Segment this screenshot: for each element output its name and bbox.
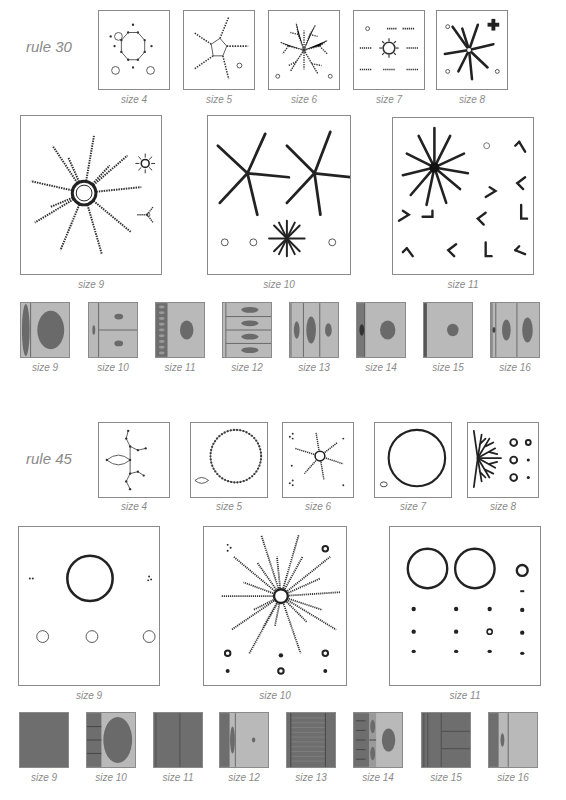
caption: size 14 bbox=[353, 772, 403, 783]
caption: size 12 bbox=[219, 772, 269, 783]
cell-grid-graphic bbox=[223, 303, 271, 357]
rule45-size14-grid bbox=[353, 712, 403, 768]
cell-grid-graphic bbox=[290, 303, 338, 357]
caption: size 16 bbox=[490, 362, 540, 373]
rule45-size6-tile bbox=[282, 422, 354, 498]
caption: size 4 bbox=[98, 501, 170, 512]
rule45-size11-tile bbox=[389, 526, 541, 686]
rule-45-label: rule 45 bbox=[26, 450, 72, 467]
rule30-size13-grid bbox=[289, 302, 339, 358]
fan-tree-graphic bbox=[468, 423, 538, 497]
rule30-size10-grid bbox=[88, 302, 138, 358]
cell-grid-graphic bbox=[489, 713, 537, 767]
caption: size 8 bbox=[467, 501, 539, 512]
caption: size 11 bbox=[155, 362, 205, 373]
caption: size 16 bbox=[488, 772, 538, 783]
caption: size 9 bbox=[19, 772, 69, 783]
spiky-star-graphic bbox=[437, 11, 507, 89]
cell-grid-graphic bbox=[357, 303, 405, 357]
rule45-size16-grid bbox=[488, 712, 538, 768]
caption: size 8 bbox=[436, 94, 508, 105]
branching-star-graphic bbox=[269, 11, 339, 89]
rule45-size10-grid bbox=[86, 712, 136, 768]
rule30-size6-tile bbox=[268, 10, 340, 90]
rule30-size5-tile bbox=[183, 10, 255, 90]
five-arm-stars-graphic bbox=[208, 116, 350, 274]
caption: size 13 bbox=[286, 772, 336, 783]
rule30-size16-grid bbox=[490, 302, 540, 358]
rule-30-label: rule 30 bbox=[26, 38, 72, 55]
rule45-size9-tile bbox=[18, 526, 160, 686]
cell-grid-graphic bbox=[154, 713, 202, 767]
caption: size 12 bbox=[222, 362, 272, 373]
rule45-size5-tile bbox=[190, 422, 268, 498]
caption: size 10 bbox=[207, 279, 351, 290]
cell-grid-graphic bbox=[491, 303, 539, 357]
rule30-size9-grid bbox=[20, 302, 70, 358]
rule30-size9-tile bbox=[20, 115, 162, 275]
branching-tree-graphic bbox=[99, 423, 169, 497]
rule45-size10-tile bbox=[203, 526, 347, 686]
rule45-size13-grid bbox=[286, 712, 336, 768]
caption: size 11 bbox=[153, 772, 203, 783]
caption: size 7 bbox=[353, 94, 425, 105]
dotted-sunburst-graphic bbox=[204, 527, 346, 685]
rule30-size4-tile bbox=[98, 10, 170, 90]
rule45-size9-grid bbox=[19, 712, 69, 768]
rule45-size15-grid bbox=[421, 712, 471, 768]
cell-grid-graphic bbox=[220, 713, 268, 767]
large-ring-graphic bbox=[375, 423, 451, 497]
ring-and-crosses-graphic bbox=[354, 11, 424, 89]
star-and-tiles-graphic bbox=[393, 118, 533, 274]
cell-grid-graphic bbox=[21, 303, 69, 357]
caption: size 11 bbox=[392, 279, 534, 290]
rule30-size12-grid bbox=[222, 302, 272, 358]
caption: size 9 bbox=[20, 362, 70, 373]
caption: size 5 bbox=[190, 501, 268, 512]
rule45-size7-tile bbox=[374, 422, 452, 498]
rule45-size4-tile bbox=[98, 422, 170, 498]
rule45-size12-grid bbox=[219, 712, 269, 768]
rule45-size11-grid bbox=[153, 712, 203, 768]
rule30-size7-tile bbox=[353, 10, 425, 90]
caption: size 15 bbox=[423, 362, 473, 373]
rule30-size14-grid bbox=[356, 302, 406, 358]
rule30-size11-grid bbox=[155, 302, 205, 358]
caption: size 9 bbox=[20, 279, 162, 290]
caption: size 7 bbox=[374, 501, 452, 512]
caption: size 6 bbox=[268, 94, 340, 105]
caption: size 10 bbox=[88, 362, 138, 373]
cell-grid-graphic bbox=[89, 303, 137, 357]
caption: size 15 bbox=[421, 772, 471, 783]
caption: size 14 bbox=[356, 362, 406, 373]
rule30-size11-tile bbox=[392, 117, 534, 275]
caption: size 4 bbox=[98, 94, 170, 105]
rings-and-dots-graphic bbox=[390, 527, 540, 685]
caption: size 11 bbox=[389, 690, 541, 701]
cell-grid-graphic bbox=[87, 713, 135, 767]
rule30-size15-grid bbox=[423, 302, 473, 358]
caption: size 13 bbox=[289, 362, 339, 373]
caption: size 9 bbox=[18, 690, 160, 701]
caption: size 10 bbox=[86, 772, 136, 783]
dotted-circle-graphic bbox=[191, 423, 267, 497]
cell-grid-graphic bbox=[354, 713, 402, 767]
caption: size 5 bbox=[183, 94, 255, 105]
caption: size 6 bbox=[282, 501, 354, 512]
rule30-size10-tile bbox=[207, 115, 351, 275]
cell-grid-graphic bbox=[422, 713, 470, 767]
pentagon-star-graphic bbox=[184, 11, 254, 89]
rule30-size8-tile bbox=[436, 10, 508, 90]
dotted-sunburst-graphic bbox=[21, 116, 161, 274]
caption: size 10 bbox=[203, 690, 347, 701]
cell-grid-graphic bbox=[424, 303, 472, 357]
ring-network-graphic bbox=[99, 11, 169, 89]
rule45-size8-tile bbox=[467, 422, 539, 498]
ring-and-loops-graphic bbox=[19, 527, 159, 685]
cell-grid-graphic bbox=[287, 713, 335, 767]
six-arm-star-graphic bbox=[283, 423, 353, 497]
cell-grid-graphic bbox=[156, 303, 204, 357]
